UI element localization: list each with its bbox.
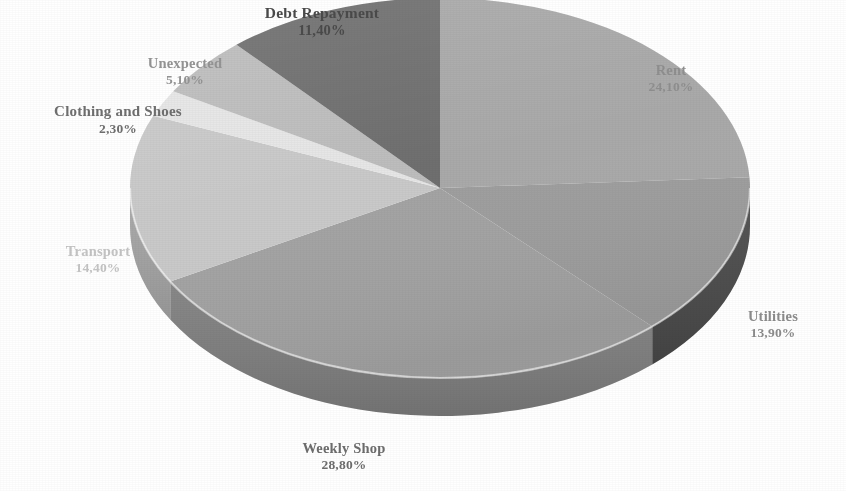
pie-chart: Rent 24,10% Utilities 13,90% Weekly Shop… <box>0 0 846 491</box>
pie-label-utilities-name: Utilities <box>700 308 846 325</box>
pie-label-unexpected: Unexpected 5,10% <box>110 55 260 88</box>
pie-label-transport-name: Transport <box>28 243 168 260</box>
pie-label-utilities: Utilities 13,90% <box>700 308 846 341</box>
pie-label-rent-value: 24,10% <box>596 79 746 95</box>
pie-label-weekly-shop-name: Weekly Shop <box>254 440 434 457</box>
pie-label-transport-value: 14,40% <box>28 260 168 276</box>
pie-label-transport: Transport 14,40% <box>28 243 168 276</box>
pie-label-debt-repayment: Debt Repayment 11,40% <box>214 4 430 39</box>
pie-label-clothing-and-shoes-value: 2,30% <box>18 121 218 137</box>
pie-label-weekly-shop-value: 28,80% <box>254 457 434 473</box>
pie-label-debt-repayment-name: Debt Repayment <box>214 4 430 22</box>
pie-label-unexpected-name: Unexpected <box>110 55 260 72</box>
pie-label-debt-repayment-value: 11,40% <box>214 22 430 39</box>
pie-label-rent: Rent 24,10% <box>596 62 746 95</box>
pie-label-utilities-value: 13,90% <box>700 325 846 341</box>
pie-label-clothing-and-shoes-name: Clothing and Shoes <box>18 103 218 121</box>
pie-label-clothing-and-shoes: Clothing and Shoes 2,30% <box>18 103 218 137</box>
pie-label-weekly-shop: Weekly Shop 28,80% <box>254 440 434 473</box>
pie-label-unexpected-value: 5,10% <box>110 72 260 88</box>
pie-label-rent-name: Rent <box>596 62 746 79</box>
